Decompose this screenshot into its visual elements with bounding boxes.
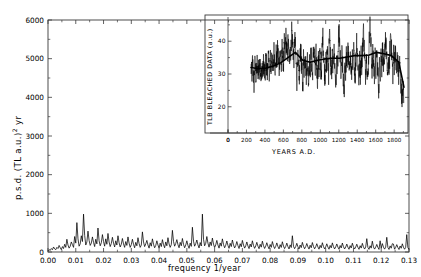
- inset-x-tick-label: 800: [297, 137, 308, 143]
- inset-x-tick-label-zero: 0: [226, 137, 230, 143]
- inset-x-tick-label: 1800: [387, 137, 402, 143]
- main-x-tick-label: 0.10: [318, 256, 335, 265]
- inset-x-tick-label: 1600: [369, 137, 384, 143]
- inset-x-tick-label: 600: [278, 137, 289, 143]
- main-y-tick-label: 1000: [25, 209, 44, 218]
- main-x-tick-label: 0.08: [262, 256, 279, 265]
- inset-x-tick-label: 200: [241, 137, 252, 143]
- main-x-tick-label: 0.02: [95, 256, 111, 265]
- inset-y-tick-label: 20: [218, 103, 226, 110]
- main-y-tick-label: 2000: [25, 170, 44, 179]
- main-x-tick-label: 0.06: [206, 256, 223, 265]
- main-x-tick-label: 0.07: [234, 256, 251, 265]
- main-x-tick-label: 0.12: [373, 256, 389, 265]
- inset-y-tick-label: 30: [218, 70, 226, 77]
- inset-x-tick-label: 1000: [313, 137, 328, 143]
- inset-raw-series-line: [251, 17, 404, 107]
- main-x-tick-label: 0.09: [290, 256, 307, 265]
- main-x-tick-label: 0.04: [151, 256, 168, 265]
- inset-x-tick-label: 1200: [332, 137, 347, 143]
- inset-x-tick-label: 1400: [350, 137, 365, 143]
- main-y-tick-label: 0: [39, 248, 44, 257]
- main-y-tick-label: 6000: [25, 16, 44, 25]
- main-x-tick-label: 0.13: [401, 256, 418, 265]
- main-x-tick-label: 0.03: [123, 256, 140, 265]
- inset-y-tick-label: 40: [218, 37, 226, 44]
- figure-canvas: p.s.d. (TL a.u.)2 yr frequency 1/year TL…: [0, 0, 421, 277]
- main-plot-frame: [48, 20, 409, 252]
- main-x-tick-label: 0.00: [40, 256, 57, 265]
- main-y-tick-label: 4000: [25, 93, 44, 102]
- main-x-tick-label: 0.01: [68, 256, 84, 265]
- main-x-tick-label: 0.11: [345, 256, 361, 265]
- main-y-tick-label: 5000: [25, 54, 44, 63]
- main-x-tick-label: 0.05: [179, 256, 195, 265]
- inset-x-tick-label: 400: [260, 137, 271, 143]
- main-spectrum-line: [48, 214, 409, 251]
- chart-svg: 0.000.010.020.030.040.050.060.070.080.09…: [0, 0, 421, 277]
- main-y-tick-label: 3000: [25, 132, 44, 141]
